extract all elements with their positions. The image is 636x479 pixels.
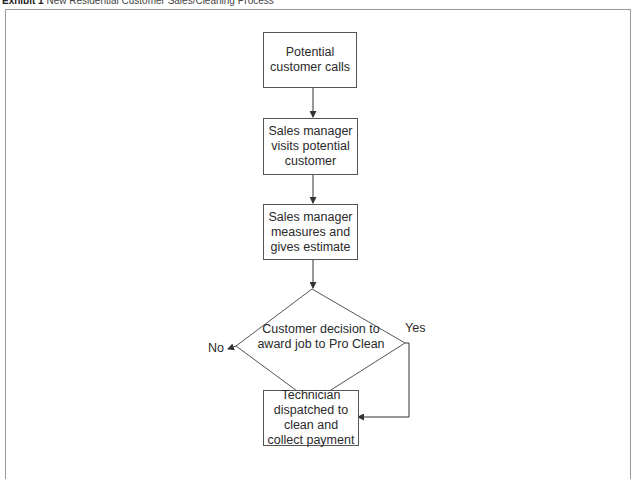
node-technician-dispatched: Technician dispatched to clean and colle…	[263, 390, 359, 446]
node-text: Technician dispatched to clean and colle…	[267, 388, 355, 448]
node-potential-customer-calls: Potential customer calls	[263, 32, 357, 88]
node-sales-manager-estimate: Sales manager measures and gives estimat…	[263, 204, 358, 260]
arrow-no	[228, 346, 236, 349]
node-sales-manager-visits: Sales manager visits potential customer	[263, 118, 358, 175]
label-no: No	[208, 341, 224, 355]
decision-text: Customer decision to award job to Pro Cl…	[256, 322, 386, 352]
node-text: Sales manager visits potential customer	[267, 124, 354, 169]
node-text: Potential customer calls	[267, 45, 353, 75]
label-yes: Yes	[405, 321, 425, 335]
node-text: Sales manager measures and gives estimat…	[267, 210, 354, 255]
